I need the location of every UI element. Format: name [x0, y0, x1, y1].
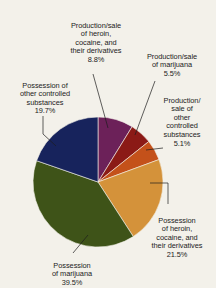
- label-possession-marijuana-pct: 39.5%: [24, 279, 120, 288]
- label-production-heroin-pct: 8.8%: [51, 56, 141, 65]
- label-production-heroin-text: Production/sale of heroin, cocaine, and …: [71, 21, 122, 56]
- label-production-other: Production/ sale of other controlled sub…: [150, 88, 214, 157]
- label-possession-heroin-text: Possession of heroin, cocaine, and their…: [152, 216, 203, 251]
- label-possession-heroin: Possession of heroin, cocaine, and their…: [139, 208, 215, 268]
- label-possession-other-pct: 19.7%: [4, 107, 86, 116]
- label-possession-heroin-pct: 21.5%: [139, 251, 215, 260]
- label-possession-other: Possession of other controlled substance…: [4, 73, 86, 125]
- label-production-marijuana-pct: 5.5%: [130, 70, 214, 79]
- label-production-heroin: Production/sale of heroin, cocaine, and …: [51, 13, 141, 73]
- label-production-marijuana-text: Production/sale of marijuana: [147, 52, 197, 70]
- label-possession-marijuana: Possession of marijuana 39.5%: [24, 253, 120, 288]
- label-production-marijuana: Production/sale of marijuana 5.5%: [130, 44, 214, 87]
- label-production-other-text: Production/ sale of other controlled sub…: [164, 96, 201, 139]
- label-possession-other-text: Possession of other controlled substance…: [20, 81, 70, 107]
- pie-chart-figure: Production/sale of heroin, cocaine, and …: [0, 0, 216, 288]
- label-production-other-pct: 5.1%: [150, 140, 214, 149]
- label-possession-marijuana-text: Possession of marijuana: [52, 261, 92, 279]
